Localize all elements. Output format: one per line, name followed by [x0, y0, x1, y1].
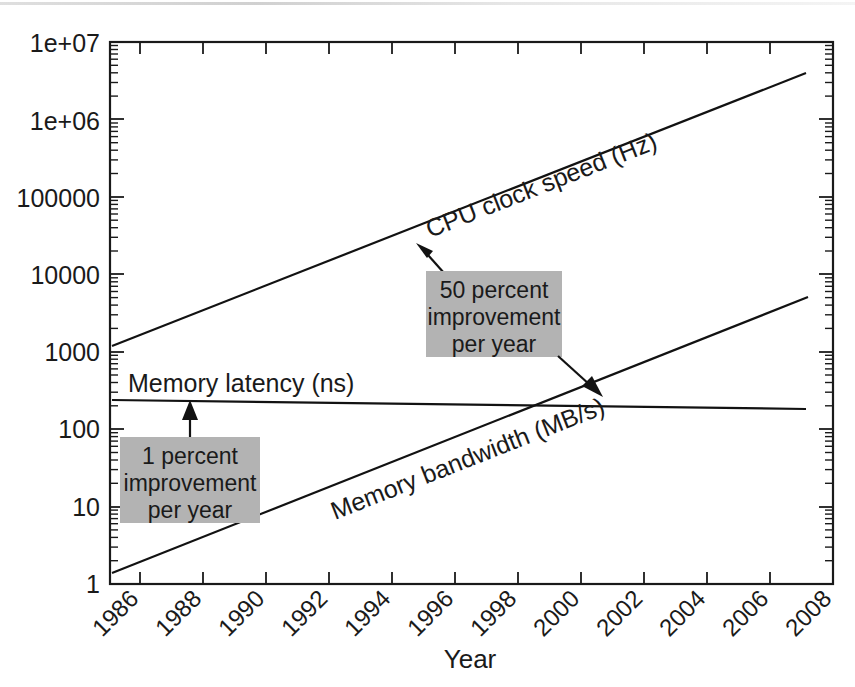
y-tick-label: 1000	[44, 338, 100, 366]
arrowhead-to-cpu-line	[416, 243, 433, 258]
x-tick-label: 2008	[780, 584, 837, 641]
x-tick-label: 1996	[402, 584, 459, 641]
x-tick-label: 1992	[276, 584, 333, 641]
x-tick-label: 2002	[591, 584, 648, 641]
series-line-memory-latency	[112, 400, 806, 409]
y-tick-label: 1	[86, 570, 100, 598]
x-axis-title: Year	[444, 644, 497, 674]
annotation-line: improvement	[428, 304, 562, 330]
arrowhead-to-latency-line	[182, 400, 198, 420]
x-axis-tick-labels: 1986 1988 1990 1992 1994 1996 1998 2000 …	[87, 584, 837, 641]
annotation-line: improvement	[124, 470, 258, 496]
x-tick-label: 2004	[654, 584, 711, 641]
annotation-line: 50 percent	[440, 277, 549, 303]
x-tick-label: 1994	[339, 584, 396, 641]
x-tick-label: 2006	[717, 584, 774, 641]
y-tick-label: 1e+07	[30, 29, 100, 57]
x-tick-label: 1990	[213, 584, 270, 641]
y-tick-label: 100	[58, 415, 100, 443]
annotation-fifty-percent: 50 percent improvement per year	[416, 243, 603, 397]
annotation-one-percent: 1 percent improvement per year	[120, 400, 260, 523]
x-tick-label: 2000	[528, 584, 585, 641]
series-label-cpu-clock-speed: CPU clock speed (Hz)	[422, 126, 661, 242]
x-tick-label: 1988	[150, 584, 207, 641]
annotation-line: per year	[148, 497, 233, 523]
chart-figure: 1e+07 1e+06 100000 10000 1000 100 10 1 1…	[0, 0, 855, 687]
x-tick-label: 1998	[465, 584, 522, 641]
y-tick-label: 10	[72, 493, 100, 521]
y-tick-label: 10000	[30, 261, 100, 289]
y-tick-label: 100000	[17, 184, 100, 212]
y-axis-tick-labels: 1e+07 1e+06 100000 10000 1000 100 10 1	[17, 29, 100, 598]
series-label-memory-bandwidth: Memory bandwidth (MB/s)	[327, 392, 609, 525]
annotation-line: 1 percent	[142, 443, 239, 469]
series-label-memory-latency: Memory latency (ns)	[128, 369, 354, 397]
y-tick-label: 1e+06	[30, 107, 100, 135]
annotation-line: per year	[452, 331, 537, 357]
